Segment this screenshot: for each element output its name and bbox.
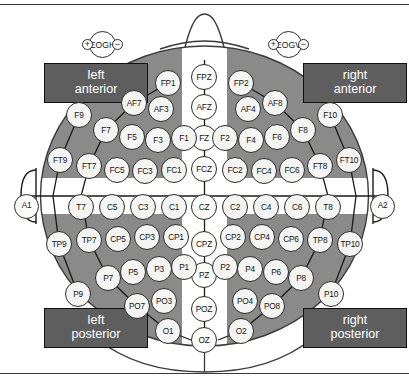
electrode-p6[interactable]: P6 xyxy=(263,259,289,285)
electrode-t8[interactable]: T8 xyxy=(315,194,341,220)
electrode-oz[interactable]: OZ xyxy=(191,327,217,353)
electrode-label: P6 xyxy=(271,268,281,276)
electrode-p10[interactable]: P10 xyxy=(318,281,344,307)
electrode-f10[interactable]: F10 xyxy=(317,102,343,128)
electrode-f1[interactable]: F1 xyxy=(171,125,197,151)
electrode-cp1[interactable]: CP1 xyxy=(163,224,189,250)
electrode-a1[interactable]: A1 xyxy=(14,194,39,219)
electrode-fc4[interactable]: FC4 xyxy=(251,158,277,184)
electrode-c4[interactable]: C4 xyxy=(253,194,279,220)
electrode-fc3[interactable]: FC3 xyxy=(132,158,158,184)
electrode-p9[interactable]: P9 xyxy=(65,281,91,307)
electrode-label: P3 xyxy=(154,265,164,273)
electrode-tp8[interactable]: TP8 xyxy=(307,227,333,253)
electrode-label: PO8 xyxy=(264,302,280,310)
electrode-label: T7 xyxy=(76,203,85,211)
electrode-f3[interactable]: F3 xyxy=(145,127,171,153)
electrode-afz[interactable]: AFZ xyxy=(191,94,217,120)
electrode-fpz[interactable]: FPZ xyxy=(191,64,217,90)
electrode-label: TP9 xyxy=(52,240,67,248)
electrode-t7[interactable]: T7 xyxy=(68,194,94,220)
electrode-tp10[interactable]: TP10 xyxy=(337,231,363,257)
electrode-cp2[interactable]: CP2 xyxy=(220,224,246,250)
electrode-p5[interactable]: P5 xyxy=(120,259,146,285)
electrode-cpz[interactable]: CPZ xyxy=(191,231,217,257)
electrode-o2[interactable]: O2 xyxy=(228,318,254,344)
eog-marker-eogv: + EOGV − xyxy=(268,31,309,58)
electrode-po8[interactable]: PO8 xyxy=(259,293,285,319)
electrode-af4[interactable]: AF4 xyxy=(235,96,261,122)
electrode-cp3[interactable]: CP3 xyxy=(134,224,160,250)
region-label-line1: left xyxy=(88,69,105,83)
electrode-label: C1 xyxy=(169,203,179,211)
electrode-c1[interactable]: C1 xyxy=(161,194,187,220)
eog-marker-eogh: + EOGH − xyxy=(82,31,123,58)
electrode-p2[interactable]: P2 xyxy=(212,254,238,280)
electrode-c5[interactable]: C5 xyxy=(99,194,125,220)
electrode-cp6[interactable]: CP6 xyxy=(278,226,304,252)
electrode-c3[interactable]: C3 xyxy=(130,194,156,220)
electrode-po4[interactable]: PO4 xyxy=(232,288,258,314)
electrode-label: CP1 xyxy=(168,233,184,241)
electrode-f2[interactable]: F2 xyxy=(212,125,238,151)
electrode-label: F3 xyxy=(153,136,162,144)
electrode-c2[interactable]: C2 xyxy=(222,194,248,220)
electrode-fcz[interactable]: FCZ xyxy=(191,156,217,182)
electrode-cp5[interactable]: CP5 xyxy=(105,226,131,252)
electrode-p8[interactable]: P8 xyxy=(288,265,314,291)
electrode-label: P7 xyxy=(103,274,113,282)
electrode-label: P5 xyxy=(128,268,138,276)
electrode-label: TP10 xyxy=(340,240,359,248)
electrode-label: AF7 xyxy=(127,99,142,107)
electrode-label: AF8 xyxy=(268,99,283,107)
electrode-fc5[interactable]: FC5 xyxy=(104,157,130,183)
electrode-ft7[interactable]: FT7 xyxy=(76,153,102,179)
electrode-label: FT7 xyxy=(82,162,96,170)
electrode-fc2[interactable]: FC2 xyxy=(222,157,248,183)
electrode-po3[interactable]: PO3 xyxy=(151,288,177,314)
electrode-label: P2 xyxy=(220,263,230,271)
electrode-label: F8 xyxy=(298,126,307,134)
electrode-tp7[interactable]: TP7 xyxy=(76,227,102,253)
electrode-p3[interactable]: P3 xyxy=(146,256,172,282)
electrode-cz[interactable]: CZ xyxy=(191,194,217,220)
electrode-f6[interactable]: F6 xyxy=(264,124,290,150)
region-label-line2: anterior xyxy=(75,83,118,97)
electrode-f7[interactable]: F7 xyxy=(93,117,119,143)
electrode-f9[interactable]: F9 xyxy=(66,102,92,128)
electrode-fc6[interactable]: FC6 xyxy=(279,157,305,183)
region-label-line1: left xyxy=(88,314,105,328)
electrode-ft9[interactable]: FT9 xyxy=(47,147,73,173)
electrode-a2[interactable]: A2 xyxy=(370,194,395,219)
electrode-label: F2 xyxy=(220,134,229,142)
electrode-label: FP2 xyxy=(234,79,249,87)
electrode-label: CP6 xyxy=(283,235,299,243)
electrode-label: TP7 xyxy=(82,236,97,244)
electrode-af3[interactable]: AF3 xyxy=(148,96,174,122)
electrode-p4[interactable]: P4 xyxy=(237,256,263,282)
electrode-f5[interactable]: F5 xyxy=(119,124,145,150)
electrode-cp4[interactable]: CP4 xyxy=(249,224,275,250)
electrode-c6[interactable]: C6 xyxy=(284,194,310,220)
electrode-p1[interactable]: P1 xyxy=(171,254,197,280)
electrode-ft10[interactable]: FT10 xyxy=(336,147,362,173)
electrode-tp9[interactable]: TP9 xyxy=(46,231,72,257)
electrode-label: F5 xyxy=(127,133,136,141)
eog-plus-icon: + xyxy=(268,39,279,50)
electrode-o1[interactable]: O1 xyxy=(155,318,181,344)
electrode-fp1[interactable]: FP1 xyxy=(155,70,181,96)
electrode-po7[interactable]: PO7 xyxy=(124,293,150,319)
electrode-af8[interactable]: AF8 xyxy=(262,90,288,116)
electrode-f4[interactable]: F4 xyxy=(238,127,264,153)
electrode-fc1[interactable]: FC1 xyxy=(161,157,187,183)
electrode-label: FC3 xyxy=(137,167,152,175)
montage-stage: left anterior right anterior left poster… xyxy=(0,0,409,379)
electrode-af7[interactable]: AF7 xyxy=(121,90,147,116)
electrode-label: CZ xyxy=(199,203,210,211)
electrode-p7[interactable]: P7 xyxy=(95,265,121,291)
electrode-poz[interactable]: POZ xyxy=(191,296,217,322)
electrode-ft8[interactable]: FT8 xyxy=(307,153,333,179)
electrode-fp2[interactable]: FP2 xyxy=(228,70,254,96)
electrode-label: AFZ xyxy=(196,103,211,111)
electrode-f8[interactable]: F8 xyxy=(290,117,316,143)
